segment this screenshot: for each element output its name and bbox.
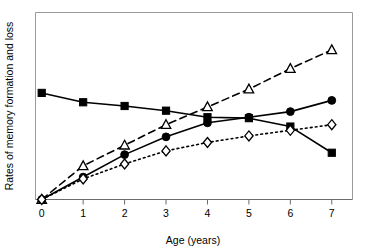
- x-tick-label: 0: [39, 207, 45, 219]
- data-point-filled-circle: [121, 151, 129, 159]
- data-point-filled-circle: [204, 119, 212, 127]
- data-point-filled-circle: [286, 108, 294, 116]
- x-tick-label: 7: [329, 207, 335, 219]
- data-point-filled-circle: [162, 133, 170, 141]
- x-tick-label: 1: [80, 207, 86, 219]
- y-axis-title: Rates of memory formation and loss: [3, 22, 15, 191]
- data-point-filled-square: [162, 107, 169, 114]
- x-axis: 01234567: [36, 200, 353, 219]
- data-point-open-triangle: [327, 45, 337, 54]
- data-point-open-diamond: [203, 137, 211, 147]
- x-axis-tick-labels: 01234567: [39, 207, 335, 219]
- chart-figure: 01234567 Age (years) Rates of memory for…: [0, 0, 365, 252]
- line-chart: 01234567 Age (years) Rates of memory for…: [0, 0, 365, 252]
- data-point-filled-square: [328, 149, 335, 156]
- series-line: [42, 125, 332, 200]
- x-axis-title: Age (years): [166, 234, 220, 246]
- data-point-open-triangle: [244, 84, 254, 93]
- x-tick-label: 5: [246, 207, 252, 219]
- data-point-open-diamond: [162, 146, 170, 156]
- data-point-open-triangle: [286, 64, 296, 73]
- x-axis-ticks: [42, 200, 332, 205]
- data-point-open-diamond: [328, 120, 336, 130]
- series-layer: [37, 45, 337, 205]
- x-tick-label: 4: [205, 207, 211, 219]
- series: [38, 96, 336, 203]
- data-point-filled-circle: [245, 113, 253, 121]
- data-point-open-triangle: [120, 140, 130, 149]
- x-tick-label: 6: [287, 207, 293, 219]
- data-point-open-diamond: [120, 159, 128, 169]
- data-point-open-triangle: [203, 102, 213, 111]
- data-point-filled-square: [80, 99, 87, 106]
- data-point-open-diamond: [245, 131, 253, 141]
- data-point-filled-circle: [328, 96, 336, 104]
- data-point-filled-square: [38, 89, 45, 96]
- data-point-filled-square: [121, 102, 128, 109]
- x-tick-label: 3: [163, 207, 169, 219]
- data-point-open-triangle: [78, 161, 88, 170]
- x-tick-label: 2: [122, 207, 128, 219]
